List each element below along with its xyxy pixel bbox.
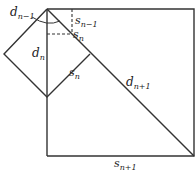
label-s-n-top: sn bbox=[73, 28, 84, 43]
label-s-n-plus-1: sn+1 bbox=[114, 157, 137, 172]
label-s-n-edge: sn bbox=[69, 66, 80, 81]
label-d-n-minus-1: dn−1 bbox=[10, 5, 35, 21]
diagonal-d-n-plus-1 bbox=[47, 9, 194, 156]
label-d-n: dn bbox=[32, 46, 45, 62]
label-s-n-minus-1: sn−1 bbox=[75, 14, 98, 29]
label-d-n-plus-1: dn+1 bbox=[126, 75, 151, 91]
diagram-canvas: dn−1 sn−1 sn dn sn dn+1 sn+1 bbox=[0, 0, 196, 172]
